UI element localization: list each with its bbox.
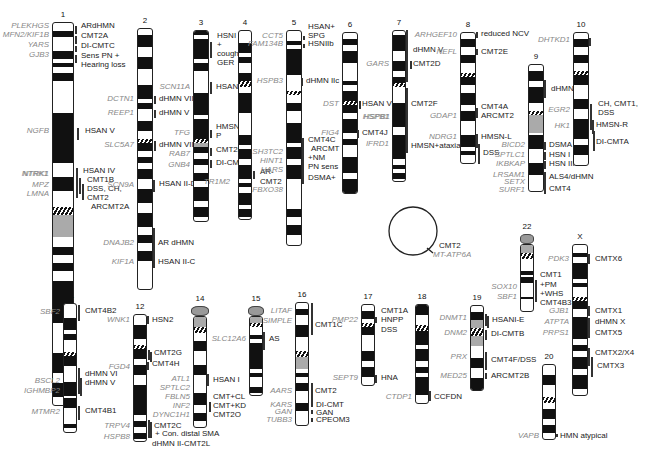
mito-gene-label: MT-ATP6A	[433, 250, 471, 259]
mitochondrial-genome-circle	[0, 0, 645, 459]
mito-disease-label: CMT2	[439, 241, 461, 250]
gene-label: HSPB1	[364, 112, 390, 121]
chromosome-gene-map: 1PLEKHGSMFN2/KIF1BYARSGJB3NGFBNTRK1MPZLM…	[0, 0, 645, 459]
gene-label: TR1M2	[204, 177, 230, 186]
gene-label: NTRK1	[22, 169, 48, 178]
